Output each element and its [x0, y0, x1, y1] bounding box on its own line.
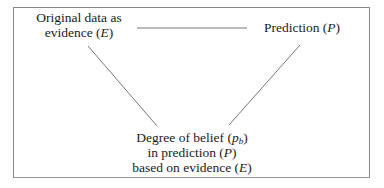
node-prediction: Prediction (P): [252, 20, 352, 35]
belief-variable: p: [232, 130, 239, 145]
evidence-line-1: Original data as: [20, 10, 138, 25]
evidence-line-2-suffix: ): [109, 25, 114, 40]
evidence-line-2: evidence (E): [20, 25, 138, 40]
evidence-line-2-prefix: evidence (: [45, 25, 101, 40]
evidence-variable: E: [101, 25, 109, 40]
belief-line-3-prefix: based on evidence (: [132, 160, 239, 175]
belief-line-1-suffix: ): [243, 130, 248, 145]
belief-line-2-suffix: ): [232, 145, 237, 160]
belief-line-3-suffix: ): [247, 160, 252, 175]
prediction-prefix: Prediction (: [264, 20, 327, 35]
belief-line-3: based on evidence (E): [120, 160, 264, 175]
belief-line-1: Degree of belief (pb): [120, 130, 264, 145]
belief-line-2-prefix: in prediction (: [147, 145, 223, 160]
prediction-variable: P: [327, 20, 335, 35]
belief-prediction-variable: P: [224, 145, 232, 160]
prediction-suffix: ): [336, 20, 341, 35]
belief-line-1-prefix: Degree of belief (: [136, 130, 232, 145]
belief-line-2: in prediction (P): [120, 145, 264, 160]
node-degree-of-belief: Degree of belief (pb) in prediction (P) …: [120, 130, 264, 175]
node-original-data-evidence: Original data as evidence (E): [20, 10, 138, 40]
edge-prediction-belief: [229, 45, 300, 125]
edge-evidence-belief: [88, 46, 157, 126]
